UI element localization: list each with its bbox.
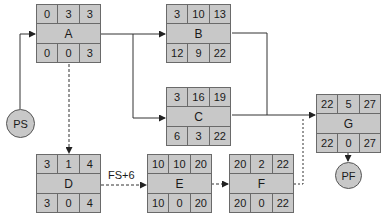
node-d-ls: 3: [37, 194, 57, 212]
lag-label: FS+6: [108, 169, 135, 181]
node-d-duration: 1: [57, 155, 78, 173]
node-e-float: 0: [168, 194, 189, 212]
node-d-es: 3: [37, 155, 57, 173]
node-f-label: F: [230, 173, 293, 194]
activity-node-a: 0 3 3 A 0 0 3: [36, 4, 101, 63]
node-b-ls: 12: [167, 44, 187, 62]
node-e-duration: 10: [168, 155, 189, 173]
project-finish-node: PF: [335, 162, 362, 189]
node-d-label: D: [37, 173, 100, 194]
node-a-duration: 3: [57, 5, 78, 23]
node-g-ef: 27: [359, 95, 380, 113]
node-g-float: 0: [337, 134, 358, 152]
activity-node-b: 3 10 13 B 12 9 22: [166, 4, 231, 63]
edge-a-c: [133, 34, 165, 118]
node-c-lf: 22: [209, 127, 230, 145]
activity-node-f: 20 2 22 F 20 0 22: [229, 154, 294, 213]
node-d-ef: 4: [79, 155, 100, 173]
node-g-ls: 22: [317, 134, 337, 152]
node-f-float: 0: [250, 194, 271, 212]
node-g-lf: 27: [359, 134, 380, 152]
node-e-lf: 20: [190, 194, 211, 212]
node-a-es: 0: [37, 5, 57, 23]
node-c-ef: 19: [209, 88, 230, 106]
node-b-ef: 13: [209, 5, 230, 23]
activity-node-d: 3 1 4 D 3 0 4: [36, 154, 101, 213]
node-c-label: C: [167, 106, 230, 127]
node-b-lf: 22: [209, 44, 230, 62]
node-a-float: 0: [57, 44, 78, 62]
node-f-ef: 22: [272, 155, 293, 173]
node-c-es: 3: [167, 88, 187, 106]
edge-f-g: [294, 118, 303, 184]
node-e-es: 10: [148, 155, 168, 173]
node-g-label: G: [317, 113, 380, 134]
node-b-es: 3: [167, 5, 187, 23]
project-finish-label: PF: [341, 170, 355, 182]
node-f-duration: 2: [250, 155, 271, 173]
node-a-label: A: [37, 23, 100, 44]
project-start-label: PS: [13, 118, 28, 130]
node-c-duration: 16: [187, 88, 208, 106]
node-a-lf: 3: [79, 44, 100, 62]
node-a-ef: 3: [79, 5, 100, 23]
node-d-lf: 4: [79, 194, 100, 212]
activity-node-e: 10 10 20 E 10 0 20: [147, 154, 212, 213]
node-a-ls: 0: [37, 44, 57, 62]
activity-node-c: 3 16 19 C 6 3 22: [166, 87, 231, 146]
node-f-es: 20: [230, 155, 250, 173]
node-g-es: 22: [317, 95, 337, 113]
node-f-lf: 22: [272, 194, 293, 212]
project-start-node: PS: [6, 109, 35, 138]
node-b-float: 9: [187, 44, 208, 62]
node-d-float: 0: [57, 194, 78, 212]
node-e-ls: 10: [148, 194, 168, 212]
node-c-ls: 6: [167, 127, 187, 145]
node-f-ls: 20: [230, 194, 250, 212]
node-c-float: 3: [187, 127, 208, 145]
node-e-label: E: [148, 173, 211, 194]
node-e-ef: 20: [190, 155, 211, 173]
edge-ps-a: [20, 34, 35, 109]
node-b-duration: 10: [187, 5, 208, 23]
edge-b-g: [232, 33, 267, 115]
activity-node-g: 22 5 27 G 22 0 27: [316, 94, 381, 153]
node-b-label: B: [167, 23, 230, 44]
node-g-duration: 5: [337, 95, 358, 113]
